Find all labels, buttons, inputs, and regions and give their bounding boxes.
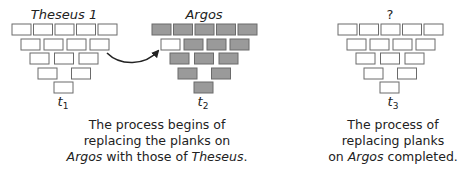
transfer-arrow xyxy=(107,51,158,63)
plank-replaced xyxy=(195,53,214,64)
plank-replaced xyxy=(195,24,214,35)
plank xyxy=(393,39,412,50)
stage-title: Argos xyxy=(184,7,222,22)
plank-replaced xyxy=(230,39,249,50)
caption-line: The process of xyxy=(318,117,458,133)
plank xyxy=(79,53,98,64)
plank xyxy=(34,24,53,35)
stage-title: ? xyxy=(387,7,394,22)
plank xyxy=(403,24,422,35)
time-label-subscript: 3 xyxy=(393,101,399,111)
plank xyxy=(72,68,91,79)
caption-text: with those of xyxy=(102,149,191,164)
caption-emphasis: Argos xyxy=(67,149,103,164)
caption-text: The process begins of xyxy=(89,117,226,132)
caption-text: . xyxy=(243,149,247,164)
plank-replaced xyxy=(207,39,226,50)
stage-argos: Argos t2 xyxy=(152,7,257,111)
caption-text: on xyxy=(328,149,348,164)
caption-line: replacing the planks on xyxy=(52,133,262,149)
plank-replaced xyxy=(170,53,189,64)
plank xyxy=(12,24,31,35)
caption-emphasis: Theseus xyxy=(192,149,244,164)
plank xyxy=(55,53,74,64)
caption-line: The process begins of xyxy=(52,117,262,133)
plank xyxy=(30,53,49,64)
plank xyxy=(364,68,383,79)
plank xyxy=(370,39,389,50)
plank-replaced xyxy=(219,53,238,64)
plank-replaced xyxy=(184,39,203,50)
plank-pyramid xyxy=(12,24,117,93)
stage-theseus-1: Theseus 1 t1 xyxy=(12,7,117,111)
plank xyxy=(21,39,40,50)
caption-text: completed. xyxy=(384,149,458,164)
plank-replaced xyxy=(174,24,193,35)
caption-emphasis: Argos xyxy=(348,149,384,164)
plank xyxy=(356,53,375,64)
plank xyxy=(44,39,63,50)
plank-replaced xyxy=(194,82,213,93)
plank xyxy=(360,24,379,35)
plank xyxy=(77,24,96,35)
plank xyxy=(338,24,357,35)
time-label-subscript: 2 xyxy=(203,101,209,111)
plank-replaced xyxy=(152,24,171,35)
plank xyxy=(424,24,443,35)
plank xyxy=(38,68,57,79)
time-label: t1 xyxy=(58,94,69,111)
plank-replaced xyxy=(212,68,231,79)
plank xyxy=(405,53,424,64)
time-label-subscript: 1 xyxy=(63,101,69,111)
plank-replaced xyxy=(178,68,197,79)
caption-process-begins: The process begins ofreplacing the plank… xyxy=(52,117,262,165)
caption-text: The process of xyxy=(347,117,438,132)
caption-line: on Argos completed. xyxy=(318,149,458,165)
plank xyxy=(54,82,73,93)
caption-text: replacing the planks on xyxy=(84,133,231,148)
plank xyxy=(55,24,74,35)
stage-title: Theseus 1 xyxy=(31,7,97,22)
plank-replaced xyxy=(238,24,257,35)
time-label: t2 xyxy=(198,94,209,111)
caption-line: Argos with those of Theseus. xyxy=(52,149,262,165)
caption-line: replacing planks xyxy=(318,133,458,149)
plank xyxy=(90,39,109,50)
caption-text: replacing planks xyxy=(342,133,445,148)
plank-replaced xyxy=(217,24,236,35)
caption-process-completed: The process ofreplacing plankson Argos c… xyxy=(318,117,458,165)
plank xyxy=(380,82,399,93)
time-label: t3 xyxy=(388,94,399,111)
plank xyxy=(161,39,180,50)
plank-pyramid xyxy=(152,24,257,93)
plank xyxy=(381,53,400,64)
plank-pyramid xyxy=(338,24,443,93)
plank xyxy=(347,39,366,50)
stage-unknown: ? t3 xyxy=(338,7,443,111)
plank xyxy=(398,68,417,79)
plank xyxy=(416,39,435,50)
plank xyxy=(381,24,400,35)
plank xyxy=(98,24,117,35)
plank xyxy=(67,39,86,50)
